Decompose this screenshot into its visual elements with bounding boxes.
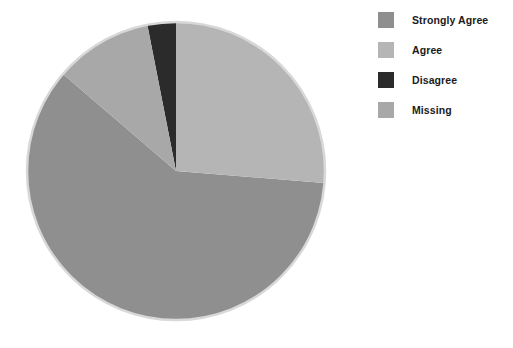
legend-swatch-missing: [378, 102, 394, 118]
legend-item-agree[interactable]: Agree: [378, 38, 508, 62]
legend-item-strongly-agree[interactable]: Strongly Agree: [378, 8, 508, 32]
pie-slice-agree[interactable]: [176, 22, 325, 183]
legend-label-strongly-agree: Strongly Agree: [412, 15, 488, 26]
pie-chart-figure: Strongly Agree Agree Disagree Missing: [0, 0, 513, 348]
legend-swatch-strongly-agree: [378, 12, 394, 28]
pie-slice-group: [27, 22, 325, 320]
legend-label-missing: Missing: [412, 105, 452, 116]
legend-item-missing[interactable]: Missing: [378, 98, 508, 122]
legend-swatch-agree: [378, 42, 394, 58]
pie-svg: [0, 0, 360, 348]
chart-legend: Strongly Agree Agree Disagree Missing: [378, 8, 508, 128]
legend-label-disagree: Disagree: [412, 75, 457, 86]
pie-plot-area: [0, 0, 360, 348]
legend-label-agree: Agree: [412, 45, 442, 56]
legend-item-disagree[interactable]: Disagree: [378, 68, 508, 92]
legend-swatch-disagree: [378, 72, 394, 88]
